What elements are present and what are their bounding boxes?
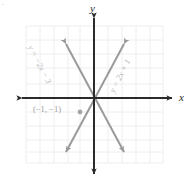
coordinate-plane-figure: · x y y = −2x − 3 y = 2x + 1 (−1, −1) xyxy=(0,0,194,190)
intersection-point-marker xyxy=(78,110,83,115)
y-axis-label: y xyxy=(90,3,95,14)
corner-mark: · xyxy=(2,2,4,8)
intersection-point-label: (−1, −1) xyxy=(33,105,61,114)
x-axis-label: x xyxy=(179,92,184,103)
graph-canvas xyxy=(0,0,194,190)
